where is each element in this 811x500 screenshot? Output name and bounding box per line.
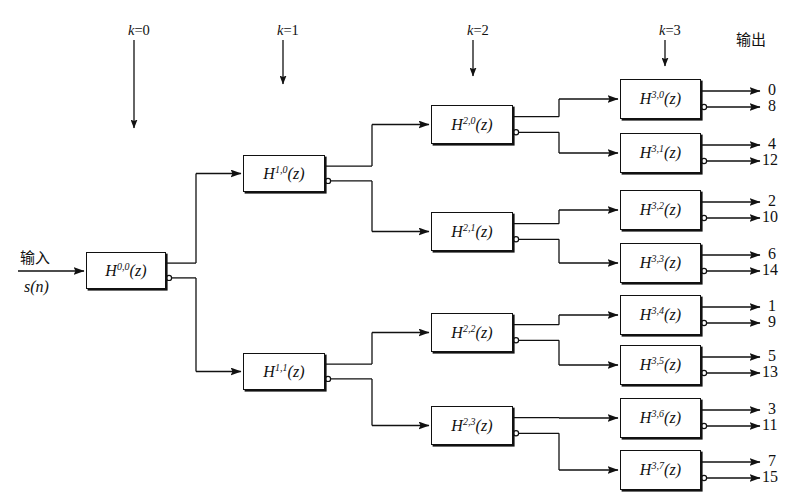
filter-base-glyph: H <box>640 91 652 108</box>
filter-label: H3,0(z) <box>640 89 681 108</box>
input-signal-label: s(n) <box>24 278 49 296</box>
filter-base-glyph: H <box>263 363 275 380</box>
filter-base-glyph: H <box>451 417 463 434</box>
filter-box-h-3-6[interactable]: H3,6(z) <box>620 398 701 438</box>
filter-argument: (z) <box>475 324 492 341</box>
filter-label: H3,4(z) <box>640 305 681 324</box>
filter-argument: (z) <box>129 262 146 279</box>
filter-superscript: 0,0 <box>117 261 130 272</box>
filter-label: H1,1(z) <box>263 362 304 381</box>
input-heading-label: 输入 <box>20 246 50 267</box>
filter-argument: (z) <box>664 462 681 479</box>
inverter-circle-icon <box>513 237 518 242</box>
filter-argument: (z) <box>475 417 492 434</box>
filter-label: H2,3(z) <box>451 416 492 435</box>
filter-argument: (z) <box>664 410 681 427</box>
stage-label-value: =2 <box>473 22 488 38</box>
filter-argument: (z) <box>287 363 304 380</box>
filter-box-h-3-0[interactable]: H3,0(z) <box>620 79 701 119</box>
filter-base-glyph: H <box>640 202 652 219</box>
filter-superscript: 3,6 <box>651 408 664 419</box>
filter-label: H0,0(z) <box>105 261 146 280</box>
inverter-circle-icon <box>701 215 706 220</box>
filter-superscript: 2,0 <box>463 115 476 126</box>
output-number: 9 <box>768 313 776 331</box>
filter-base-glyph: H <box>640 307 652 324</box>
filter-base-glyph: H <box>451 324 463 341</box>
inverter-circle-icon <box>701 158 706 163</box>
inverter-circle-icon <box>325 376 330 381</box>
filter-argument: (z) <box>664 202 681 219</box>
output-number: 11 <box>762 416 777 434</box>
filter-base-glyph: H <box>105 262 117 279</box>
filter-superscript: 2,1 <box>463 222 476 233</box>
inverter-circle-icon <box>166 275 171 280</box>
filter-superscript: 3,5 <box>651 355 664 366</box>
inverter-circle-icon <box>701 320 706 325</box>
inverter-circle-icon <box>325 178 330 183</box>
filter-box-h-3-5[interactable]: H3,5(z) <box>620 345 701 385</box>
filter-label: H2,0(z) <box>451 115 492 134</box>
inverter-circle-icon <box>513 338 518 343</box>
filter-label: H3,7(z) <box>640 460 681 479</box>
filter-base-glyph: H <box>640 357 652 374</box>
filter-box-h-3-2[interactable]: H3,2(z) <box>620 190 701 230</box>
output-number: 15 <box>762 468 778 486</box>
filter-box-h-2-2[interactable]: H2,2(z) <box>431 313 513 352</box>
filter-superscript: 3,3 <box>651 253 664 264</box>
filter-argument: (z) <box>664 91 681 108</box>
filter-superscript: 3,4 <box>651 305 664 316</box>
inverter-circle-icon <box>513 130 518 135</box>
filter-superscript: 1,0 <box>275 164 288 175</box>
filter-base-glyph: H <box>640 145 652 162</box>
filter-bank-diagram: k=0k=1k=2k=3 H0,0(z)H1,0(z)H1,1(z)H2,0(z… <box>0 0 811 500</box>
filter-superscript: 3,0 <box>651 89 664 100</box>
inverter-circle-icon <box>701 475 706 480</box>
filter-argument: (z) <box>287 165 304 182</box>
inverter-circle-icon <box>513 431 518 436</box>
stage-label-value: =1 <box>283 22 298 38</box>
inverter-circle-icon <box>701 423 706 428</box>
filter-argument: (z) <box>475 116 492 133</box>
filter-box-h-2-3[interactable]: H2,3(z) <box>431 406 513 445</box>
filter-argument: (z) <box>664 357 681 374</box>
filter-base-glyph: H <box>640 255 652 272</box>
inverter-circle-icon <box>701 370 706 375</box>
filter-label: H3,2(z) <box>640 200 681 219</box>
filter-base-glyph: H <box>640 410 652 427</box>
filter-box-h-2-1[interactable]: H2,1(z) <box>431 212 513 251</box>
filter-label: H3,5(z) <box>640 355 681 374</box>
output-number: 14 <box>762 261 778 279</box>
filter-box-h-1-0[interactable]: H1,0(z) <box>243 155 325 192</box>
output-number: 13 <box>762 363 778 381</box>
stage-label-value: =0 <box>134 22 149 38</box>
filter-superscript: 3,7 <box>651 460 664 471</box>
filter-superscript: 1,1 <box>275 362 288 373</box>
output-heading-label: 输出 <box>736 28 766 49</box>
filter-base-glyph: H <box>451 223 463 240</box>
filter-argument: (z) <box>664 307 681 324</box>
filter-label: H2,2(z) <box>451 323 492 342</box>
filter-label: H3,3(z) <box>640 253 681 272</box>
output-number: 12 <box>762 151 778 169</box>
filter-box-h-3-3[interactable]: H3,3(z) <box>620 243 701 283</box>
filter-superscript: 3,1 <box>651 143 664 154</box>
filter-box-h-3-7[interactable]: H3,7(z) <box>620 450 701 490</box>
filter-label: H3,1(z) <box>640 143 681 162</box>
filter-box-h-2-0[interactable]: H2,0(z) <box>431 105 513 144</box>
filter-label: H1,0(z) <box>263 164 304 183</box>
inverter-circle-icon <box>701 104 706 109</box>
filter-box-h-3-1[interactable]: H3,1(z) <box>620 133 701 173</box>
filter-base-glyph: H <box>640 462 652 479</box>
stage-label-k2: k=2 <box>467 22 489 39</box>
filter-base-glyph: H <box>451 116 463 133</box>
stage-label-k3: k=3 <box>659 22 681 39</box>
inverter-circle-icon <box>701 268 706 273</box>
stage-label-k1: k=1 <box>277 22 299 39</box>
filter-base-glyph: H <box>263 165 275 182</box>
filter-argument: (z) <box>664 255 681 272</box>
filter-box-h-3-4[interactable]: H3,4(z) <box>620 295 701 335</box>
filter-superscript: 3,2 <box>651 200 664 211</box>
filter-box-h-1-1[interactable]: H1,1(z) <box>243 353 325 390</box>
filter-box-h-0-0[interactable]: H0,0(z) <box>86 252 166 289</box>
